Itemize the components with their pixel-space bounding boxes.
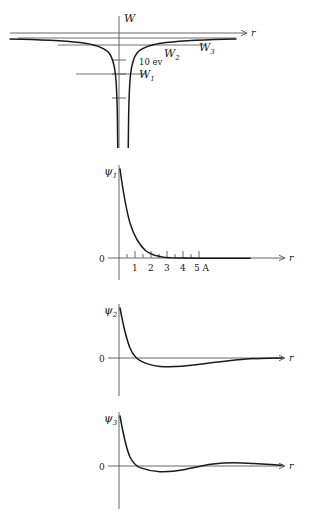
potential-curve-left: [10, 39, 118, 148]
psi1-tick-label-5: 5 A: [194, 263, 210, 273]
energy-level-3-label: W3: [199, 41, 215, 56]
cropped-caption-remnant: [30, 0, 290, 7]
psi1-tick-label-1: 1: [132, 263, 138, 273]
energy-level-2-label: W2: [164, 47, 180, 62]
psi1-y-axis-label: ψ1: [104, 165, 117, 180]
potential-r-axis-label: r: [251, 27, 257, 38]
figure-root: r W W3 W2 10 ev W1 r ψ1: [0, 0, 314, 513]
potential-curve-right: [128, 39, 236, 148]
psi3-r-axis-label: r: [289, 460, 295, 471]
potential-w-axis-label: W: [124, 12, 137, 25]
psi1-tick-label-3: 3: [164, 263, 170, 273]
psi1-zero-label: 0: [99, 254, 105, 264]
psi3-zero-label: 0: [99, 462, 105, 472]
psi2-r-axis-label: r: [289, 352, 295, 363]
psi3-curve: [120, 416, 282, 472]
psi1-r-axis-label: r: [289, 252, 295, 263]
energy-level-1-label: W1: [139, 68, 155, 83]
psi1-tick-label-4: 4: [180, 263, 186, 273]
psi3-y-axis-label: ψ3: [104, 412, 118, 427]
panel-psi-3: r ψ3 0: [0, 404, 314, 509]
psi1-curve: [120, 169, 250, 258]
psi1-tick-label-2: 2: [148, 263, 154, 273]
panel-psi-2: r ψ2 0: [0, 296, 314, 396]
energy-scale-note-label: 10 ev: [139, 57, 163, 67]
psi2-zero-label: 0: [99, 354, 105, 364]
panel-psi-1: r ψ1 0 1 2 3 4 5 A: [0, 155, 314, 280]
panel-potential-well: r W W3 W2 10 ev W1: [0, 8, 314, 148]
psi2-y-axis-label: ψ2: [104, 304, 118, 319]
